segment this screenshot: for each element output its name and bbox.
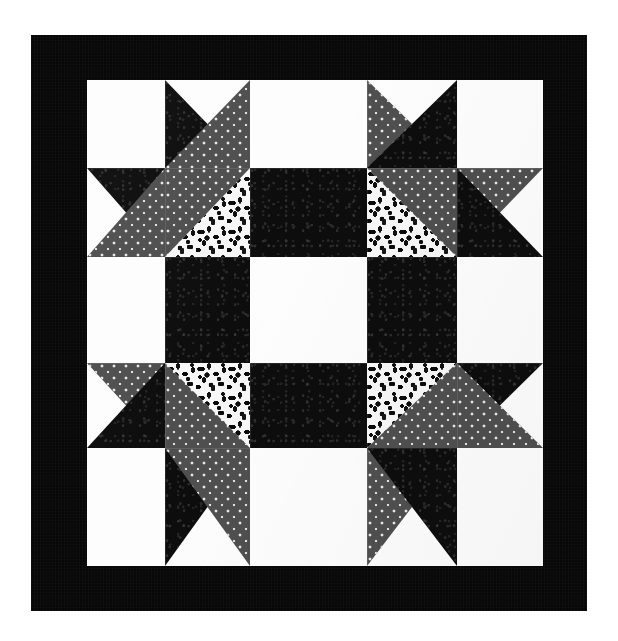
quilt-photograph	[0, 0, 618, 641]
star-body-lower-right-tri-tl	[367, 363, 457, 448]
left-star-point-bottom	[87, 363, 165, 448]
corner-white-square	[87, 80, 165, 168]
corner-white-square	[457, 448, 543, 566]
star-body-lower-left	[165, 363, 250, 448]
side-white-left	[87, 257, 165, 363]
star-body-lower-left-tri-tr	[165, 363, 250, 448]
star-body-upper-right	[367, 168, 457, 257]
sash-black-right	[367, 257, 457, 363]
star-point-upper-right	[367, 80, 457, 168]
star-point-upper-left	[165, 80, 250, 168]
right-star-point-top	[457, 168, 543, 257]
left-star-point-top	[87, 168, 165, 257]
star-point-lower-right	[367, 448, 457, 566]
corner-white-square	[87, 448, 165, 566]
right-star-point-bottom	[457, 363, 543, 448]
star-point-lower-left	[165, 448, 250, 566]
star-body-upper-right-tri-bl	[367, 168, 457, 257]
center-white-square	[250, 257, 367, 363]
top-center-white	[250, 80, 367, 168]
bottom-center-white	[250, 448, 367, 566]
sash-black-left	[165, 257, 250, 363]
star-body-lower-right	[367, 363, 457, 448]
corner-white-square	[457, 80, 543, 168]
sash-black-top	[250, 168, 367, 257]
sash-black-bottom	[250, 363, 367, 448]
star-body-upper-left-tri-br	[165, 168, 250, 257]
star-body-upper-left	[165, 168, 250, 257]
side-white-right	[457, 257, 543, 363]
pieced-field	[87, 80, 543, 566]
